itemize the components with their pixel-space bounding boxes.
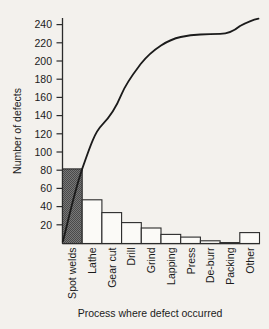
bar-packing[interactable]	[220, 243, 240, 244]
cat-label-spot-welds: Spot welds	[66, 248, 78, 299]
x-axis-category-labels: Spot welds Lathe Gear cut Drill Grind La…	[66, 247, 255, 299]
cat-label-press: Press	[185, 248, 197, 275]
y-axis-title: Number of defects	[11, 88, 23, 174]
bar-drill[interactable]	[122, 223, 142, 244]
y-tick-label: 80	[40, 164, 52, 176]
y-tick-label: 120	[34, 128, 52, 140]
bar-press[interactable]	[181, 237, 201, 243]
y-tick-label: 100	[34, 146, 52, 158]
cat-label-lapping: Lapping	[165, 247, 177, 285]
y-tick-label: 240	[34, 18, 52, 30]
cat-label-drill: Drill	[125, 248, 137, 266]
bar-grind[interactable]	[141, 228, 161, 244]
bar-lathe[interactable]	[82, 200, 102, 244]
cat-label-gear-cut: Gear cut	[106, 247, 118, 287]
y-tick-label: 220	[34, 37, 52, 49]
y-tick-label: 20	[40, 219, 52, 231]
y-tick-label: 40	[40, 200, 52, 212]
y-axis-tick-labels: 20 40 60 80 100 120 140 160 180 200 220 …	[34, 18, 52, 230]
cat-label-other: Other	[244, 247, 256, 274]
y-tick-label: 200	[34, 55, 52, 67]
y-tick-label: 160	[34, 91, 52, 103]
cat-label-de-burr: De-burr	[204, 247, 216, 283]
cat-label-packing: Packing	[224, 247, 236, 285]
pareto-chart: 20 40 60 80 100 120 140 160 180 200 220 …	[0, 0, 269, 329]
chart-canvas: 20 40 60 80 100 120 140 160 180 200 220 …	[0, 0, 269, 329]
cat-label-grind: Grind	[145, 247, 157, 273]
cat-label-lathe: Lathe	[86, 247, 98, 273]
bar-gear-cut[interactable]	[102, 213, 122, 244]
y-axis-ticks	[57, 25, 63, 225]
y-tick-label: 60	[40, 182, 52, 194]
y-tick-label: 140	[34, 109, 52, 121]
bar-group	[63, 169, 260, 244]
bar-de-burr[interactable]	[200, 241, 220, 244]
y-tick-label: 180	[34, 73, 52, 85]
bar-lapping[interactable]	[161, 234, 181, 243]
bar-other[interactable]	[240, 233, 260, 244]
x-axis-title: Process where defect occurred	[78, 307, 223, 319]
